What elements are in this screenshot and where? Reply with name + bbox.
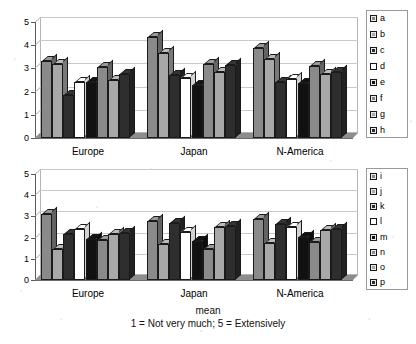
legend-item: l: [370, 217, 382, 226]
legend-item: d: [370, 62, 385, 71]
category-label: Japan: [141, 288, 247, 299]
bar: [41, 214, 52, 280]
legend-label: l: [380, 217, 382, 226]
bar: [158, 244, 169, 280]
scan-artifact: [330, 160, 332, 162]
y-axis-label: 3: [13, 64, 29, 73]
bar: [298, 237, 309, 280]
bar: [225, 226, 236, 280]
bar: [203, 64, 214, 138]
bar: [192, 85, 203, 138]
legend-item: m: [370, 233, 388, 242]
y-axis-line: [35, 22, 36, 138]
legend-swatch: [370, 79, 377, 86]
legend-item: g: [370, 110, 385, 119]
bar-side-face: [236, 219, 241, 279]
bar: [41, 61, 52, 138]
caption-line-1: mean: [0, 304, 416, 317]
gridline: [40, 169, 358, 170]
bar: [309, 66, 320, 138]
scan-artifact: [200, 330, 203, 332]
legend-swatch: [370, 111, 377, 118]
legend-item: e: [370, 78, 385, 87]
legend-label: b: [380, 30, 385, 39]
bar: [74, 229, 85, 280]
bar: [119, 233, 130, 280]
legend-swatch: [370, 264, 377, 271]
bar: [74, 82, 85, 138]
chart-page: 012345EuropeJapanN-Americaabcdefgh 01234…: [0, 0, 416, 344]
bar-side-face: [236, 58, 241, 137]
bar: [253, 219, 264, 280]
gridline: [40, 211, 358, 212]
chart-caption: mean 1 = Not very much; 5 = Extensively: [0, 304, 416, 330]
legend-label: i: [380, 172, 382, 181]
category-label: Europe: [35, 288, 141, 299]
y-axis-label: 4: [13, 41, 29, 50]
bar: [264, 243, 275, 280]
bar: [108, 234, 119, 280]
y-axis-label: 4: [13, 191, 29, 200]
bar: [264, 59, 275, 138]
legend-swatch: [370, 63, 377, 70]
gridline: [40, 190, 358, 191]
y-axis-line: [35, 174, 36, 280]
bar-side-face: [130, 226, 135, 279]
legend-label: j: [380, 187, 382, 196]
legend-swatch: [370, 15, 377, 22]
bar: [320, 230, 331, 280]
legend-label: g: [380, 110, 385, 119]
bar: [86, 82, 97, 138]
legend-item: o: [370, 263, 385, 272]
legend-label: m: [380, 233, 388, 242]
bar: [180, 232, 191, 280]
category-label: N-America: [247, 146, 353, 157]
legend-swatch: [370, 188, 377, 195]
bar: [169, 223, 180, 280]
legend-swatch: [370, 127, 377, 134]
legend-label: h: [380, 126, 385, 135]
scan-artifact: [250, 92, 252, 93]
bar: [119, 74, 130, 138]
y-axis-tick: [31, 45, 36, 46]
bar: [169, 75, 180, 138]
bar: [225, 65, 236, 138]
legend: abcdefgh: [366, 10, 408, 138]
bar: [192, 241, 203, 280]
legend-label: p: [380, 278, 385, 287]
plot-area: 012345EuropeJapanN-Americaabcdefgh: [0, 4, 416, 166]
legend-label: n: [380, 248, 385, 257]
bar-side-face: [130, 67, 135, 137]
bar: [275, 224, 286, 280]
bar: [320, 74, 331, 138]
bar: [63, 95, 74, 138]
legend-swatch: [370, 31, 377, 38]
legend-label: o: [380, 263, 385, 272]
bar: [298, 83, 309, 138]
legend-item: f: [370, 94, 383, 103]
legend-label: a: [380, 14, 385, 23]
y-axis-tick: [31, 92, 36, 93]
bar: [52, 249, 63, 280]
legend-item: p: [370, 278, 385, 287]
legend-item: a: [370, 14, 385, 23]
y-axis-label: 1: [13, 254, 29, 263]
legend-swatch: [370, 279, 377, 286]
y-axis-tick: [31, 259, 36, 260]
scan-artifact: [60, 318, 62, 320]
y-axis-label: 5: [13, 18, 29, 27]
top-chart-panel: 012345EuropeJapanN-Americaabcdefgh: [0, 4, 416, 166]
legend-swatch: [370, 218, 377, 225]
legend-item: h: [370, 126, 385, 135]
bar: [253, 48, 264, 138]
y-axis-tick: [31, 238, 36, 239]
y-axis-tick: [31, 68, 36, 69]
gridline: [40, 17, 358, 18]
bar: [108, 80, 119, 138]
y-axis-label: 5: [13, 170, 29, 179]
bar: [331, 229, 342, 280]
legend-item: n: [370, 248, 385, 257]
bar: [86, 239, 97, 280]
y-axis-label: 0: [13, 134, 29, 143]
bar-side-face: [342, 65, 347, 137]
